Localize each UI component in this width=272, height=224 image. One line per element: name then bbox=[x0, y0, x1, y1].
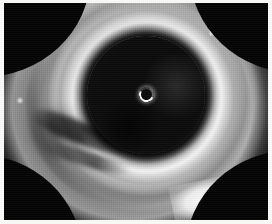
scan-frame bbox=[4, 3, 268, 220]
scan-canvas bbox=[4, 3, 268, 220]
image-grain bbox=[4, 3, 268, 220]
scan-page bbox=[0, 0, 272, 224]
